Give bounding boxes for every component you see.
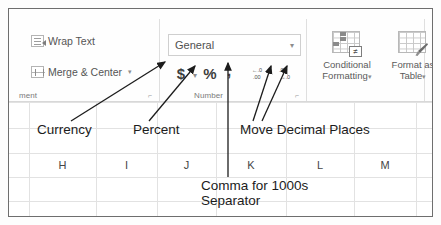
grid-row-line: [9, 153, 432, 154]
annotation-currency: Currency: [37, 122, 92, 137]
number-dialog-launcher-icon[interactable]: ⌐: [295, 92, 299, 99]
grid-row-line: [9, 102, 432, 103]
merge-center-label: Merge & Center: [48, 66, 122, 78]
alignment-dialog-launcher-icon[interactable]: ⌐: [148, 92, 152, 99]
annotation-percent: Percent: [133, 122, 180, 137]
conditional-formatting-caret-icon[interactable]: ▾: [368, 73, 372, 80]
conditional-formatting-line2: Formatting: [322, 70, 367, 81]
number-group-label: Number: [194, 91, 223, 100]
annotation-move-decimal-places: Move Decimal Places: [240, 122, 370, 137]
annotation-comma-line2: Separator: [201, 193, 260, 208]
format-as-table-line2: Table: [400, 70, 423, 81]
comma-glyph: ,: [227, 62, 231, 79]
image-frame: Wrap Text Merge & Center ▾ ment ⌐ Genera…: [8, 8, 433, 217]
format-table-icon: [398, 31, 428, 57]
merge-center-button[interactable]: Merge & Center ▾: [31, 66, 132, 78]
conditional-format-icon: ≠: [332, 31, 362, 57]
paintbrush-icon: [413, 42, 429, 58]
column-header-i[interactable]: I: [96, 159, 157, 171]
increase-decimal-button[interactable]: ←.0 .00: [252, 67, 274, 84]
conditional-formatting-line1: Conditional: [314, 59, 380, 70]
column-header-h[interactable]: H: [29, 159, 96, 171]
comma-style-button[interactable]: ,: [224, 62, 234, 79]
grid-col-line: [416, 102, 417, 217]
wrap-text-label: Wrap Text: [48, 35, 95, 47]
format-as-table-line1: Format as: [380, 59, 433, 70]
alignment-group-label: ment: [19, 91, 37, 100]
increase-decimal-row2: .00: [252, 74, 274, 81]
number-format-chevron-down-icon[interactable]: ▾: [290, 41, 294, 50]
format-as-table-button[interactable]: Format as Table▾: [380, 31, 433, 82]
percent-button[interactable]: %: [203, 65, 217, 82]
column-header-j[interactable]: J: [157, 159, 216, 171]
currency-glyph: $: [177, 65, 185, 82]
number-format-value: General: [175, 39, 290, 51]
screenshot-root: Wrap Text Merge & Center ▾ ment ⌐ Genera…: [0, 0, 441, 225]
conditional-formatting-button[interactable]: ≠ Conditional Formatting▾: [314, 31, 380, 82]
format-as-table-caret-icon[interactable]: ▾: [422, 73, 426, 80]
merge-center-caret-icon[interactable]: ▾: [128, 68, 132, 76]
wrap-text-icon: [31, 35, 44, 47]
wrap-text-button[interactable]: Wrap Text: [31, 35, 95, 47]
ribbon: Wrap Text Merge & Center ▾ ment ⌐ Genera…: [9, 9, 432, 102]
column-header-m[interactable]: M: [354, 159, 416, 171]
column-header-l[interactable]: L: [286, 159, 354, 171]
currency-caret-icon[interactable]: ▾: [191, 71, 199, 80]
merge-center-icon: [31, 66, 44, 78]
percent-glyph: %: [203, 65, 216, 82]
decrease-decimal-row2: →.0: [279, 74, 301, 81]
group-separator-number-styles: [306, 19, 307, 101]
number-format-combo[interactable]: General ▾: [168, 34, 301, 56]
column-header-k[interactable]: K: [216, 159, 286, 171]
currency-button[interactable]: $: [174, 65, 188, 82]
annotation-comma-line1: Comma for 1000s: [201, 178, 308, 193]
group-separator-alignment-number: [159, 19, 160, 101]
decrease-decimal-button[interactable]: .00 →.0: [279, 67, 301, 84]
